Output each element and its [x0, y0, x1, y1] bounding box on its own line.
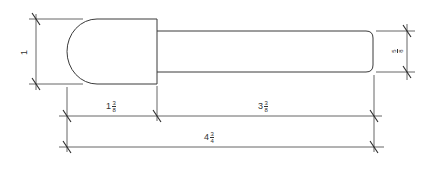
shank-outline: [157, 31, 373, 72]
head-height-dimension: [29, 13, 83, 90]
shank-length-label: 3 3 8: [258, 100, 268, 113]
technical-drawing: [0, 0, 433, 169]
overall-dimension-line: [59, 141, 384, 153]
shank-length-fraction: 3 8: [264, 100, 268, 113]
head-height-label: 1: [19, 46, 29, 58]
shank-diameter-fraction: 5 8: [391, 49, 404, 53]
overall-length-fraction: 3 4: [210, 131, 214, 144]
head-length-fraction: 3 8: [112, 100, 116, 113]
overall-length-label: 4 3 4: [204, 131, 214, 144]
shank-diameter-label: 5 8: [392, 44, 402, 58]
head-outline: [67, 19, 157, 84]
head-length-label: 1 3 8: [106, 100, 116, 113]
head-height-value: 1: [20, 50, 29, 55]
